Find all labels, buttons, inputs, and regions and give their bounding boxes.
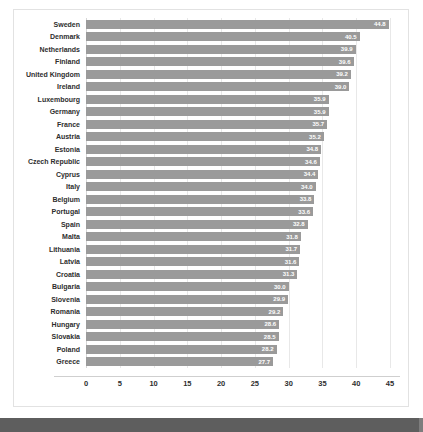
bar-value-label: 31.7 <box>285 246 297 252</box>
category-label: Malta <box>14 231 83 244</box>
footer-bar <box>0 418 423 432</box>
bar-row: 44.8 <box>86 18 390 31</box>
bar-value-label: 35.9 <box>314 109 326 115</box>
category-label: Finland <box>14 56 83 69</box>
bar-value-label: 39.0 <box>335 84 347 90</box>
category-label: Netherlands <box>14 43 83 56</box>
category-label: Italy <box>14 181 83 194</box>
category-label: Bulgaria <box>14 281 83 294</box>
bar <box>86 182 316 191</box>
bar-row: 31.8 <box>86 231 390 244</box>
bar-value-label: 34.8 <box>306 146 318 152</box>
bar-value-label: 29.9 <box>273 296 285 302</box>
bar-value-label: 34.6 <box>305 159 317 165</box>
bar <box>86 320 279 329</box>
bar-row: 29.2 <box>86 306 390 319</box>
bar <box>86 257 299 266</box>
bar-value-label: 32.8 <box>293 221 305 227</box>
category-label: Luxembourg <box>14 93 83 106</box>
bar <box>86 245 300 254</box>
bar <box>86 82 349 91</box>
bar <box>86 345 277 354</box>
bar-row: 30.0 <box>86 281 390 294</box>
category-label: Portugal <box>14 206 83 219</box>
category-label: Slovenia <box>14 293 83 306</box>
category-label: Poland <box>14 343 83 356</box>
bar-value-label: 31.6 <box>285 259 297 265</box>
bar <box>86 20 389 29</box>
bar <box>86 220 308 229</box>
bar-value-label: 27.7 <box>258 359 270 365</box>
category-label: Germany <box>14 106 83 119</box>
bar-row: 29.9 <box>86 293 390 306</box>
bar <box>86 45 356 54</box>
bar <box>86 107 329 116</box>
x-tick-label: 35 <box>318 379 326 388</box>
bar-row: 28.6 <box>86 318 390 331</box>
category-label: Lithuania <box>14 243 83 256</box>
bar-row: 35.2 <box>86 131 390 144</box>
bar-row: 34.8 <box>86 143 390 156</box>
category-label: Spain <box>14 218 83 231</box>
category-label: Denmark <box>14 31 83 44</box>
x-tick-label: 0 <box>84 379 88 388</box>
bar-row: 39.9 <box>86 43 390 56</box>
bar <box>86 282 289 291</box>
category-label: Belgium <box>14 193 83 206</box>
bar <box>86 195 314 204</box>
bar <box>86 132 324 141</box>
category-label: Romania <box>14 306 83 319</box>
footer-bar-end-cap <box>419 418 423 432</box>
category-label: Estonia <box>14 143 83 156</box>
category-label: Czech Republic <box>14 156 83 169</box>
category-label: Croatia <box>14 268 83 281</box>
bar-row: 34.0 <box>86 181 390 194</box>
bar-value-label: 34.0 <box>301 184 313 190</box>
bar <box>86 145 321 154</box>
bar <box>86 32 360 41</box>
category-label: Cyprus <box>14 168 83 181</box>
x-axis-tick-labels: 051015202530354045 <box>86 379 390 395</box>
category-label: United Kingdom <box>14 68 83 81</box>
category-axis-labels: SwedenDenmarkNetherlandsFinlandUnited Ki… <box>14 18 83 368</box>
bar-row: 31.6 <box>86 256 390 269</box>
bar-row: 27.7 <box>86 356 390 369</box>
x-tick-label: 45 <box>386 379 394 388</box>
x-tick-label: 40 <box>352 379 360 388</box>
bar-value-label: 44.8 <box>374 21 386 27</box>
category-label: Austria <box>14 131 83 144</box>
chart-frame: SwedenDenmarkNetherlandsFinlandUnited Ki… <box>13 9 409 407</box>
bar-value-label: 31.3 <box>283 271 295 277</box>
bar-row: 39.6 <box>86 56 390 69</box>
bar-row: 35.9 <box>86 106 390 119</box>
bar <box>86 232 301 241</box>
bar-row: 33.8 <box>86 193 390 206</box>
bar-value-label: 33.6 <box>298 209 310 215</box>
bar-value-label: 39.2 <box>336 71 348 77</box>
bar-value-label: 29.2 <box>269 309 281 315</box>
bar <box>86 57 354 66</box>
bar-value-label: 35.9 <box>314 96 326 102</box>
bar <box>86 95 329 104</box>
category-label: Ireland <box>14 81 83 94</box>
x-tick-label: 25 <box>251 379 259 388</box>
bar-row: 34.6 <box>86 156 390 169</box>
x-axis-line <box>54 376 400 377</box>
bar <box>86 120 327 129</box>
bar-row: 39.2 <box>86 68 390 81</box>
category-label: Hungary <box>14 318 83 331</box>
bar-row: 33.6 <box>86 206 390 219</box>
bar-value-label: 28.6 <box>265 321 277 327</box>
bar-value-label: 40.5 <box>345 34 357 40</box>
bar <box>86 170 318 179</box>
bar-value-label: 30.0 <box>274 284 286 290</box>
bar <box>86 270 297 279</box>
bar <box>86 332 279 341</box>
bar <box>86 307 283 316</box>
bar-row: 40.5 <box>86 31 390 44</box>
category-label: Slovakia <box>14 331 83 344</box>
bar-row: 31.7 <box>86 243 390 256</box>
category-label: France <box>14 118 83 131</box>
bar-value-label: 35.2 <box>309 134 321 140</box>
bar-value-label: 39.6 <box>339 59 351 65</box>
